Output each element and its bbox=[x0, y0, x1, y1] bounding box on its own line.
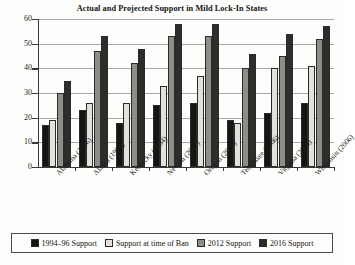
bar bbox=[308, 66, 315, 167]
x-tick-mark bbox=[186, 167, 187, 171]
bar bbox=[242, 68, 249, 167]
legend-label: 1994–96 Support bbox=[42, 239, 97, 248]
bar bbox=[101, 36, 108, 167]
legend-swatch-icon bbox=[259, 239, 267, 247]
bar bbox=[190, 103, 197, 167]
x-tick-mark bbox=[75, 167, 76, 171]
bar bbox=[123, 103, 130, 167]
legend-swatch-icon bbox=[197, 239, 205, 247]
bar bbox=[197, 76, 204, 167]
bar bbox=[205, 36, 212, 167]
y-axis-line bbox=[38, 19, 39, 168]
y-tick-label: 60 bbox=[10, 14, 32, 23]
bar bbox=[153, 105, 160, 167]
bar bbox=[212, 24, 219, 167]
legend-item: 2012 Support bbox=[197, 239, 251, 248]
bar bbox=[316, 39, 323, 167]
chart-legend: 1994–96 SupportSupport at time of Ban201… bbox=[11, 233, 333, 253]
legend-label: Support at time of Ban bbox=[116, 239, 189, 248]
x-tick-mark bbox=[223, 167, 224, 171]
y-tick-label: 0 bbox=[10, 162, 32, 171]
x-tick-mark bbox=[260, 167, 261, 171]
bar bbox=[86, 103, 93, 167]
y-axis-tick-labels: 0102030405060 bbox=[0, 0, 32, 265]
legend-item: 1994–96 Support bbox=[31, 239, 97, 248]
y-tick-label: 30 bbox=[10, 88, 32, 97]
bar-group bbox=[42, 19, 72, 167]
bar bbox=[138, 49, 145, 167]
x-tick-mark bbox=[334, 167, 335, 171]
bar bbox=[271, 68, 278, 167]
bar bbox=[49, 120, 56, 167]
bar bbox=[42, 125, 49, 167]
legend-item: Support at time of Ban bbox=[105, 239, 189, 248]
y-tick-label: 20 bbox=[10, 113, 32, 122]
x-tick-mark bbox=[297, 167, 298, 171]
bar bbox=[323, 26, 330, 167]
x-tick-mark bbox=[149, 167, 150, 171]
bar bbox=[249, 54, 256, 167]
bar bbox=[57, 93, 64, 167]
chart-title: Actual and Projected Support in Mild Loc… bbox=[0, 3, 344, 14]
bar bbox=[94, 51, 101, 167]
bar bbox=[286, 34, 293, 167]
y-tick-label: 50 bbox=[10, 39, 32, 48]
y-tick-label: 10 bbox=[10, 137, 32, 146]
x-tick-mark bbox=[112, 167, 113, 171]
bar bbox=[168, 36, 175, 167]
bar bbox=[301, 103, 308, 167]
bar bbox=[279, 56, 286, 167]
bar bbox=[160, 86, 167, 167]
bar bbox=[175, 24, 182, 167]
legend-item: 2016 Support bbox=[259, 239, 313, 248]
legend-label: 2012 Support bbox=[208, 239, 251, 248]
bar bbox=[131, 63, 138, 167]
legend-label: 2016 Support bbox=[270, 239, 313, 248]
legend-swatch-icon bbox=[105, 239, 113, 247]
legend-swatch-icon bbox=[31, 239, 39, 247]
y-tick-label: 40 bbox=[10, 63, 32, 72]
